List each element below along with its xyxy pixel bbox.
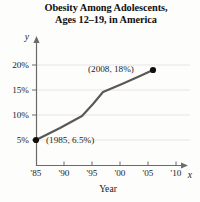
y-tick-label-15: 15% bbox=[12, 85, 29, 95]
x-tick-label-10: '10 bbox=[171, 168, 182, 178]
y-tick-label-10: 10% bbox=[12, 110, 29, 120]
x-axis-variable-label: x bbox=[187, 169, 193, 180]
annotation-1985: (1985, 6.5%) bbox=[46, 135, 94, 145]
y-tick-label-20: 20% bbox=[12, 60, 29, 70]
x-axis-title: Year bbox=[99, 183, 117, 194]
y-tick-label-5: 5% bbox=[17, 135, 30, 145]
x-tick-label-05: '05 bbox=[143, 168, 154, 178]
x-tick-label-85: '85 bbox=[31, 168, 42, 178]
line-chart-plot: 5% 10% 15% 20% '85 '90 '95 '00 '05 '10 y… bbox=[0, 0, 200, 202]
data-point-marker-1985 bbox=[33, 137, 39, 143]
x-tick-label-95: '95 bbox=[87, 168, 98, 178]
x-tick-label-00: '00 bbox=[115, 168, 126, 178]
chart-figure: Obesity Among Adolescents, Ages 12–19, i… bbox=[0, 0, 200, 202]
data-series-line bbox=[36, 70, 153, 140]
data-point-marker-2008 bbox=[150, 67, 156, 73]
y-axis bbox=[32, 36, 40, 166]
y-axis-variable-label: y bbox=[24, 31, 30, 42]
x-tick-label-90: '90 bbox=[59, 168, 70, 178]
annotation-2008: (2008, 18%) bbox=[88, 64, 134, 74]
